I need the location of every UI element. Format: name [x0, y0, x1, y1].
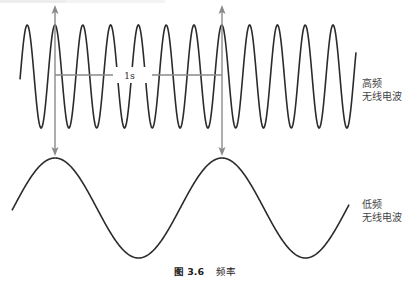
low-frequency-label-line1: 低频: [362, 198, 402, 211]
caption-number: 图 3.6: [174, 266, 204, 277]
figure-caption: 图 3.6频率: [0, 264, 410, 278]
caption-title: 频率: [216, 266, 236, 277]
high-frequency-label-line1: 高频: [362, 77, 402, 90]
one-second-label: 1s: [124, 69, 135, 82]
low-frequency-label: 低频 无线电波: [362, 198, 402, 224]
high-frequency-label-line2: 无线电波: [362, 90, 402, 103]
high-frequency-wave: [20, 25, 356, 128]
frequency-diagram: [0, 0, 410, 285]
low-frequency-label-line2: 无线电波: [362, 211, 402, 224]
low-frequency-wave: [12, 158, 349, 258]
high-frequency-label: 高频 无线电波: [362, 77, 402, 103]
